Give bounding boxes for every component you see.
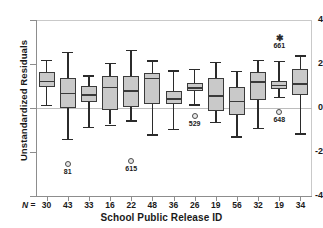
box-plot-6	[144, 0, 160, 228]
boxplot-chart: Unstandardized Residuals 420-2-4 N = 304…	[0, 0, 323, 228]
whisker-cap-min	[295, 133, 306, 135]
box-iqr	[102, 76, 118, 110]
box-iqr	[39, 72, 55, 87]
median-line	[271, 85, 287, 87]
whisker-cap-max	[274, 61, 285, 63]
whisker-cap-min	[189, 104, 200, 106]
whisker-cap-max	[210, 62, 221, 64]
x-tick-7	[174, 196, 175, 201]
whisker-cap-min	[62, 139, 73, 141]
whisker-cap-min	[105, 125, 116, 127]
box-plot-10	[229, 0, 245, 228]
box-plot-9	[208, 0, 224, 228]
outlier-label-615: 615	[116, 165, 146, 172]
whisker-cap-min	[126, 120, 137, 122]
median-line	[229, 101, 245, 103]
x-tick-5	[131, 196, 132, 201]
box-iqr	[208, 78, 224, 111]
whisker-cap-min	[253, 128, 264, 130]
median-line	[60, 93, 76, 95]
box-plot-4	[102, 0, 118, 228]
box-plot-5	[123, 0, 139, 228]
whisker-cap-min	[210, 122, 221, 124]
median-line	[123, 90, 139, 92]
y-tick--4	[30, 196, 37, 197]
whisker-cap-max	[253, 60, 264, 62]
whisker-cap-max	[126, 50, 137, 52]
outlier-label-648: 648	[264, 116, 294, 123]
whisker-cap-max	[168, 70, 179, 72]
whisker-cap-max	[41, 60, 52, 62]
box-iqr	[292, 69, 308, 95]
median-line	[102, 87, 118, 89]
whisker-cap-max	[231, 71, 242, 73]
median-line	[81, 94, 97, 96]
whisker-cap-min	[274, 97, 285, 99]
box-plot-1	[39, 0, 55, 228]
outlier-label-661: 661	[264, 42, 294, 49]
median-line	[250, 81, 266, 83]
x-tick-10	[237, 196, 238, 201]
x-tick-6	[152, 196, 153, 201]
median-line	[187, 87, 203, 89]
whisker-line	[278, 61, 280, 97]
median-line	[144, 78, 160, 80]
whisker-cap-max	[147, 60, 158, 62]
x-tick-12	[279, 196, 280, 201]
whisker-cap-max	[83, 75, 94, 77]
whisker-cap-min	[41, 105, 52, 107]
whisker-cap-min	[231, 136, 242, 138]
whisker-cap-min	[83, 127, 94, 129]
x-tick-3	[89, 196, 90, 201]
extreme-marker-661: ✱	[276, 35, 284, 41]
x-tick-2	[68, 196, 69, 201]
median-line	[208, 95, 224, 97]
outlier-marker-81	[65, 161, 71, 167]
box-plot-13	[292, 0, 308, 228]
box-plot-7	[166, 0, 182, 228]
box-plot-11	[250, 0, 266, 228]
whisker-cap-max	[105, 63, 116, 65]
box-plot-3	[81, 0, 97, 228]
x-tick-9	[216, 196, 217, 201]
whisker-cap-max	[295, 55, 306, 57]
x-tick-4	[110, 196, 111, 201]
median-line	[292, 83, 308, 85]
y-axis-label: Unstandardized Residuals	[18, 26, 29, 176]
whisker-cap-min	[147, 134, 158, 136]
x-tick-11	[258, 196, 259, 201]
outlier-label-529: 529	[180, 120, 210, 127]
whisker-cap-max	[189, 69, 200, 71]
whisker-cap-max	[62, 52, 73, 54]
box-iqr	[250, 72, 266, 101]
x-tick-8	[195, 196, 196, 201]
whisker-cap-min	[168, 129, 179, 131]
x-tick-1	[47, 196, 48, 201]
outlier-label-81: 81	[53, 168, 83, 175]
x-tick-13	[300, 196, 301, 201]
box-plot-2	[60, 0, 76, 228]
median-line	[39, 81, 55, 83]
median-line	[166, 98, 182, 100]
